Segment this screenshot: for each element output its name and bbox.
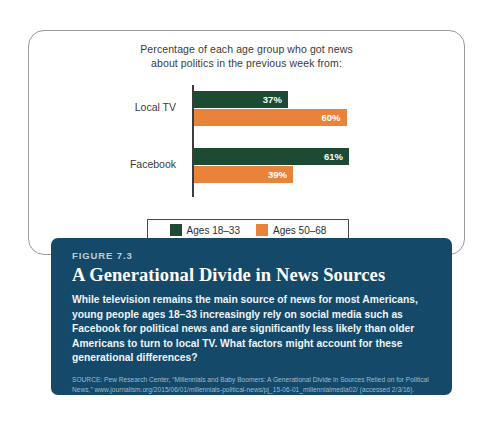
legend-swatch-icon-ages-50-68 — [256, 224, 268, 236]
bar-group-local-tv: Local TV 37% 60% — [29, 89, 466, 129]
chart-title: Percentage of each age group who got new… — [29, 43, 464, 70]
legend-swatch-icon-ages-18-33 — [170, 224, 182, 236]
figure-body-text: While television remains the main source… — [72, 293, 432, 366]
bar-group-facebook: Facebook 61% 39% — [29, 146, 466, 186]
bar-facebook-ages-18-33: 61% — [194, 148, 350, 165]
figure-number: FIGURE 7.3 — [72, 250, 432, 261]
figure-container: Percentage of each age group who got new… — [0, 0, 497, 423]
chart-title-line-1: Percentage of each age group who got new… — [29, 43, 464, 57]
legend-item-ages-50-68: Ages 50–68 — [256, 224, 326, 236]
legend-label-ages-50-68: Ages 50–68 — [273, 225, 326, 236]
plot-area: Local TV 37% 60% Facebook 61% 39% — [29, 83, 466, 201]
bar-local-tv-ages-50-68: 60% — [194, 109, 347, 126]
chart-title-line-2: about politics in the previous week from… — [29, 57, 464, 71]
caption-panel: FIGURE 7.3 A Generational Divide in News… — [51, 238, 452, 395]
figure-heading: A Generational Divide in News Sources — [72, 265, 432, 286]
figure-source-citation: SOURCE: Pew Research Center, “Millennial… — [72, 375, 432, 394]
legend-label-ages-18-33: Ages 18–33 — [187, 225, 240, 236]
category-label-local-tv: Local TV — [56, 101, 176, 113]
bar-facebook-ages-50-68: 39% — [194, 166, 293, 183]
chart-card: Percentage of each age group who got new… — [28, 30, 465, 255]
legend-item-ages-18-33: Ages 18–33 — [170, 224, 240, 236]
bar-local-tv-ages-18-33: 37% — [194, 91, 288, 108]
category-label-facebook: Facebook — [56, 158, 176, 170]
